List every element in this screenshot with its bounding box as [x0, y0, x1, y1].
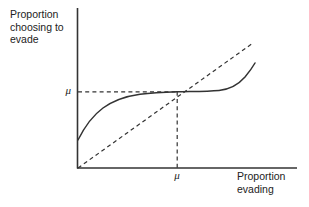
chart-figure: Proportion choosing to evade Proportion …: [0, 0, 309, 207]
y-axis-tick-label-mu: μ: [57, 85, 71, 96]
forty-five-degree-line: [78, 43, 253, 168]
response-curve: [78, 63, 255, 140]
y-axis-label: Proportion choosing to evade: [10, 8, 74, 46]
x-axis-label: Proportion evading: [237, 170, 305, 195]
x-axis-tick-label-mu: μ: [170, 170, 184, 181]
